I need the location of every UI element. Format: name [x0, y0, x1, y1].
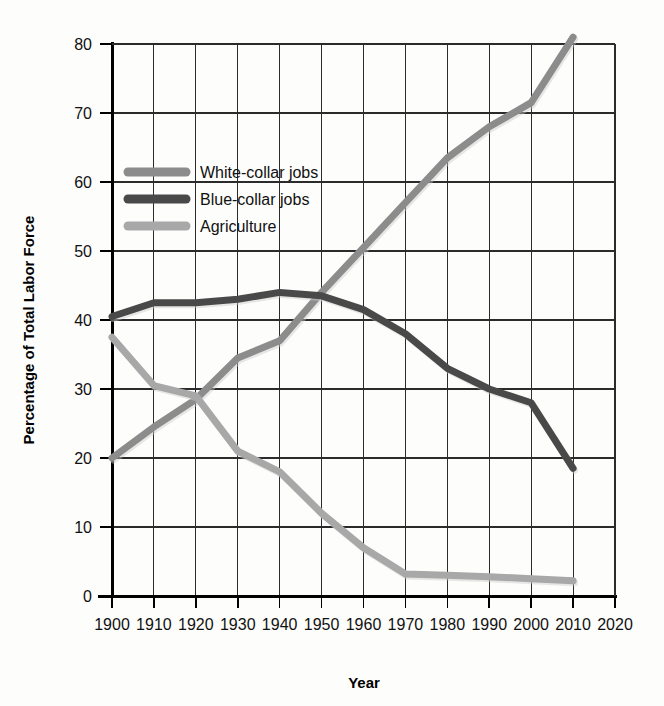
x-tick-label: 1960	[346, 616, 382, 633]
y-tick-label: 80	[74, 36, 92, 53]
x-tick-label: 1980	[430, 616, 466, 633]
x-tick-label: 2000	[513, 616, 549, 633]
x-tick-label: 2020	[597, 616, 633, 633]
x-tick-label: 1910	[136, 616, 172, 633]
legend-label: Blue-collar jobs	[200, 191, 309, 208]
series-line-agriculture	[112, 337, 573, 581]
x-axis-title: Year	[348, 674, 380, 691]
line-chart: 1900191019201930194019501960197019801990…	[0, 0, 664, 706]
series-shadow-3	[114, 339, 575, 583]
axis-lines-layer	[98, 42, 617, 596]
x-tick-label: 1930	[220, 616, 256, 633]
chart-legend: White-collar jobsBlue-collar jobsAgricul…	[128, 164, 318, 235]
x-tick-label: 1950	[304, 616, 340, 633]
y-axis-title: Percentage of Total Labor Force	[20, 216, 37, 445]
y-tick-label: 0	[83, 588, 92, 605]
x-tick-label: 1920	[178, 616, 214, 633]
x-tick-label: 1990	[471, 616, 507, 633]
x-tick-label: 1970	[388, 616, 424, 633]
y-tick-label: 20	[74, 450, 92, 467]
y-tick-label: 40	[74, 312, 92, 329]
grid-layer	[112, 44, 615, 596]
series-line-blue-collar-jobs	[112, 292, 573, 468]
y-tick-label: 50	[74, 243, 92, 260]
y-tick-label: 60	[74, 174, 92, 191]
x-tick-label: 1940	[262, 616, 298, 633]
series-layer	[112, 37, 575, 583]
y-tick-label: 70	[74, 105, 92, 122]
y-tick-label: 30	[74, 381, 92, 398]
chart-container: 1900191019201930194019501960197019801990…	[0, 0, 664, 706]
x-tick-label: 1900	[94, 616, 130, 633]
y-tick-label: 10	[74, 519, 92, 536]
legend-label: Agriculture	[200, 218, 277, 235]
series-shadow-2	[114, 294, 575, 470]
legend-label: White-collar jobs	[200, 164, 318, 181]
x-tick-label: 2010	[555, 616, 591, 633]
tick-marks-layer	[100, 44, 615, 608]
